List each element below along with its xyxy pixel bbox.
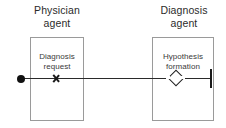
start-node-icon — [17, 75, 25, 83]
decision-diamond-icon — [167, 69, 184, 86]
physician-agent-title: Physician agent — [18, 4, 96, 29]
diagnosis-agent-title: Diagnosis agent — [148, 4, 220, 29]
x-marker-icon — [50, 73, 61, 84]
end-terminator-icon — [210, 69, 212, 88]
diagram-canvas: Physician agent Diagnosis agent Diagnosi… — [0, 0, 226, 128]
diagnosis-request-label: Diagnosis request — [24, 52, 90, 71]
diamond-notch-left — [166, 76, 170, 79]
diamond-notch-right — [181, 76, 185, 79]
